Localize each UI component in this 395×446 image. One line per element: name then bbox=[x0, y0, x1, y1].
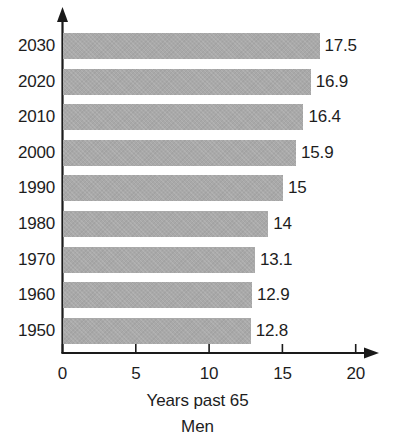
bar-value-label: 12.9 bbox=[257, 282, 289, 308]
x-tick-label: 15 bbox=[262, 364, 302, 384]
y-axis-category-label: 1990 bbox=[0, 175, 55, 201]
bar bbox=[63, 140, 296, 166]
x-tick-label: 10 bbox=[189, 364, 229, 384]
bar bbox=[63, 175, 283, 201]
bar bbox=[63, 247, 255, 273]
bar-value-label: 16.4 bbox=[308, 104, 340, 130]
y-axis-category-label: 2020 bbox=[0, 69, 55, 95]
bar-value-label: 14 bbox=[273, 211, 292, 237]
bar-value-label: 16.9 bbox=[316, 69, 348, 95]
chart-subtitle: Men bbox=[0, 417, 395, 437]
x-tick-label: 0 bbox=[43, 364, 83, 384]
x-axis-arrow-icon bbox=[364, 348, 379, 359]
bar-row: 197013.1 bbox=[0, 247, 395, 273]
bar-value-label: 15.9 bbox=[301, 140, 333, 166]
bar bbox=[63, 318, 251, 344]
bar-row: 195012.8 bbox=[0, 318, 395, 344]
bar-row: 199015 bbox=[0, 175, 395, 201]
bar bbox=[63, 104, 303, 130]
x-tick-label: 20 bbox=[336, 364, 376, 384]
bar-value-label: 15 bbox=[288, 175, 307, 201]
x-axis-title: Years past 65 bbox=[0, 391, 395, 411]
y-axis-category-label: 2030 bbox=[0, 33, 55, 59]
bar bbox=[63, 33, 320, 59]
bar bbox=[63, 282, 252, 308]
bar-row: 201016.4 bbox=[0, 104, 395, 130]
bar-row: 196012.9 bbox=[0, 282, 395, 308]
plot-area: 203017.5202016.9201016.4200015.919901519… bbox=[0, 0, 395, 446]
bar bbox=[63, 211, 268, 237]
y-axis-category-label: 2000 bbox=[0, 140, 55, 166]
bar-chart: 203017.5202016.9201016.4200015.919901519… bbox=[0, 0, 395, 446]
y-axis-category-label: 2010 bbox=[0, 104, 55, 130]
bar-row: 202016.9 bbox=[0, 69, 395, 95]
y-axis-category-label: 1970 bbox=[0, 247, 55, 273]
bar-value-label: 17.5 bbox=[325, 33, 357, 59]
x-tick-label: 5 bbox=[116, 364, 156, 384]
bar-row: 198014 bbox=[0, 211, 395, 237]
y-axis-category-label: 1950 bbox=[0, 318, 55, 344]
bar-row: 203017.5 bbox=[0, 33, 395, 59]
y-axis-arrow-icon bbox=[57, 7, 68, 22]
bar-value-label: 13.1 bbox=[260, 247, 292, 273]
bar-value-label: 12.8 bbox=[256, 318, 288, 344]
y-axis-category-label: 1960 bbox=[0, 282, 55, 308]
bar-row: 200015.9 bbox=[0, 140, 395, 166]
x-axis-ticks bbox=[63, 344, 356, 353]
y-axis-category-label: 1980 bbox=[0, 211, 55, 237]
bar bbox=[63, 69, 311, 95]
